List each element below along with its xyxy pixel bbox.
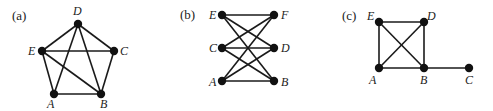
vertex-F [270, 11, 278, 19]
vertex-D [74, 20, 82, 28]
vertex-C [465, 64, 473, 72]
vertex-E [218, 11, 226, 19]
edge-D-A [54, 24, 78, 94]
graph-b: (b)EFCDAB [180, 7, 290, 89]
vertex-C [110, 47, 118, 55]
panel-label: (a) [12, 8, 26, 23]
panel-label: (c) [342, 8, 356, 23]
vertex-label-B: B [100, 97, 108, 111]
vertex-label-F: F [280, 8, 289, 22]
vertex-label-D: D [280, 41, 290, 55]
vertex-B [270, 77, 278, 85]
vertex-label-E: E [366, 9, 375, 23]
vertex-label-A: A [368, 73, 377, 87]
vertex-label-A: A [208, 75, 217, 89]
vertex-label-A: A [46, 97, 55, 111]
vertex-label-B: B [281, 75, 289, 89]
vertex-B [420, 64, 428, 72]
vertex-label-E: E [208, 8, 217, 22]
vertex-label-E: E [27, 44, 36, 58]
vertex-label-B: B [420, 73, 428, 87]
vertex-A [218, 77, 226, 85]
graph-a: (a)DECAB [12, 4, 129, 111]
edge-D-B [78, 24, 101, 94]
edge-E-B [42, 51, 101, 94]
vertex-label-D: D [426, 9, 436, 23]
graph-c: (c)EDABC [342, 8, 474, 87]
vertex-E [38, 47, 46, 55]
vertex-label-D: D [72, 4, 82, 18]
vertex-label-C: C [120, 44, 129, 58]
vertex-A [375, 64, 383, 72]
vertex-C [218, 44, 226, 52]
graph-figure: (a)DECAB(b)EFCDAB(c)EDABC [0, 0, 493, 111]
vertex-D [270, 44, 278, 52]
vertex-E [375, 18, 383, 26]
panel-label: (b) [180, 7, 195, 22]
edge-D-C [78, 24, 114, 51]
edge-C-B [101, 51, 114, 94]
vertex-label-C: C [209, 41, 218, 55]
vertex-label-C: C [465, 73, 474, 87]
